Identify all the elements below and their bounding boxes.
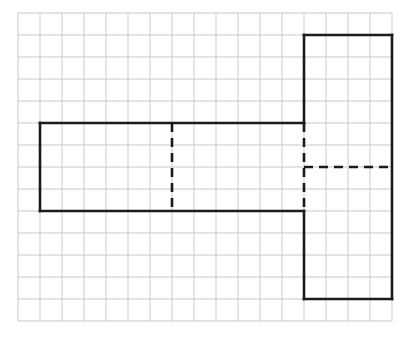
grid-figure-svg (0, 0, 417, 339)
figure-canvas (0, 0, 417, 339)
